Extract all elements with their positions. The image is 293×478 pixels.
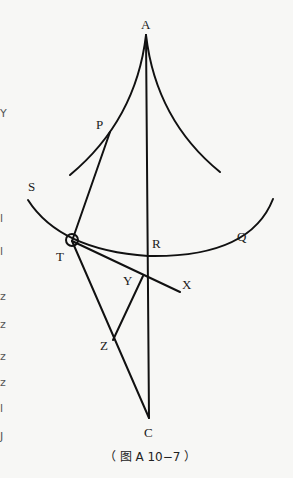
margin-fragment: z: [0, 350, 6, 363]
right-cusp-curve: [146, 35, 220, 172]
label-C: C: [144, 425, 153, 440]
margin-fragment: z: [0, 376, 6, 389]
axis-line-AC: [146, 35, 149, 418]
label-R: R: [152, 236, 161, 251]
label-S: S: [28, 179, 35, 194]
margin-fragment: J: [0, 430, 3, 443]
line-TC: [72, 241, 149, 418]
label-T: T: [56, 249, 64, 264]
label-P: P: [96, 117, 103, 132]
label-Z: Z: [100, 338, 108, 353]
label-X: X: [182, 277, 192, 292]
figure-caption: （ 图 A 10−7 ）: [104, 450, 196, 464]
line-PT: [72, 132, 110, 241]
margin-fragment: Y: [0, 107, 7, 120]
left-cusp-curve: [70, 35, 146, 175]
geometry-diagram: A P S T R Q Y X Z C （ 图 A 10−7 ） Y l l z…: [0, 0, 293, 478]
label-Y: Y: [123, 273, 133, 288]
label-Q: Q: [237, 229, 247, 244]
arc-SQ: [28, 199, 273, 256]
label-A: A: [141, 17, 151, 32]
margin-fragment: l: [0, 212, 3, 225]
margin-fragment: l: [0, 402, 3, 415]
margin-fragment: z: [0, 290, 6, 303]
margin-fragment: z: [0, 318, 6, 331]
left-margin-fragments: Y l l z z z z l J: [0, 107, 7, 443]
margin-fragment: l: [0, 245, 3, 258]
